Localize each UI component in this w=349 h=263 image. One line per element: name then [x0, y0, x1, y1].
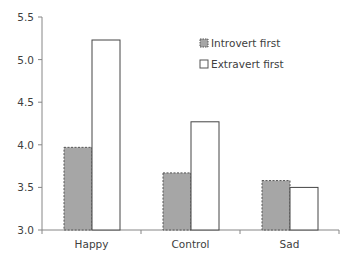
y-tick-label: 4.5: [17, 96, 34, 108]
legend-label: Extravert first: [211, 58, 284, 70]
y-tick-label: 5.0: [17, 54, 34, 66]
legend: Introvert firstExtravert first: [200, 37, 284, 70]
x-category-label: Control: [172, 238, 210, 250]
y-tick-label: 3.5: [17, 181, 34, 193]
y-tick-label: 5.5: [17, 11, 34, 23]
bar-introvert-first: [64, 147, 92, 230]
bar-chart: 3.03.54.04.55.05.5HappyControlSad Introv…: [0, 0, 349, 263]
y-tick-label: 4.0: [17, 139, 34, 151]
legend-swatch: [200, 39, 208, 47]
y-tick-label: 3.0: [17, 224, 34, 236]
legend-swatch: [200, 60, 208, 68]
bar-introvert-first: [163, 173, 191, 230]
legend-label: Introvert first: [211, 37, 280, 49]
x-category-label: Happy: [75, 238, 109, 250]
x-category-label: Sad: [280, 238, 300, 250]
bar-extravert-first: [290, 187, 318, 230]
bar-extravert-first: [92, 40, 120, 230]
bar-extravert-first: [191, 122, 219, 230]
bar-introvert-first: [262, 181, 290, 230]
